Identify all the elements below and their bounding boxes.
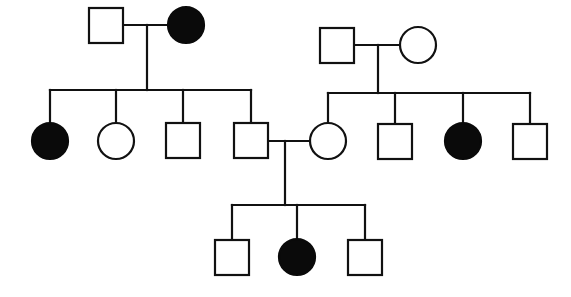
individual-III-2-female-affected — [279, 239, 315, 275]
individual-II-4-male-unaffected — [234, 123, 268, 158]
individual-III-3-male-unaffected — [348, 240, 382, 275]
individual-II-2-female-unaffected — [98, 123, 134, 159]
individual-I-2-female-affected — [168, 7, 204, 43]
individual-I-1-male-unaffected — [89, 8, 123, 43]
individual-II-8-male-unaffected — [513, 124, 547, 159]
individual-II-6-male-unaffected — [378, 124, 412, 159]
individual-III-1-male-unaffected — [215, 240, 249, 275]
individual-II-5-female-unaffected — [310, 123, 346, 159]
individual-I-4-female-unaffected — [400, 27, 436, 63]
individual-II-1-female-affected — [32, 123, 68, 159]
individual-II-7-female-affected — [445, 123, 481, 159]
individual-I-3-male-unaffected — [320, 28, 354, 63]
mating-I1-I2 — [50, 25, 251, 123]
pedigree-chart — [0, 0, 571, 297]
individual-II-3-male-unaffected — [166, 123, 200, 158]
